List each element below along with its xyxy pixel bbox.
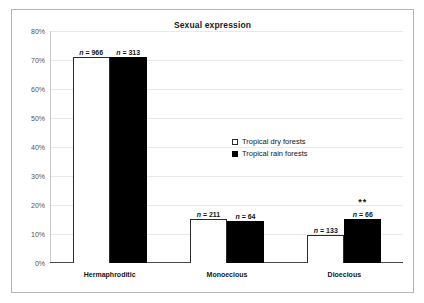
y-axis-tick-label: 50% — [31, 115, 45, 122]
open-square-icon — [232, 139, 238, 145]
x-axis-category-label: Hermaphroditic — [51, 271, 168, 278]
x-axis-category-label: Dioecious — [286, 271, 403, 278]
bar-group-hermaphroditic: n = 966n = 313Hermaphroditic — [51, 31, 168, 263]
bar-dioecious-dry: n = 133 — [307, 235, 344, 263]
y-axis-tick-label: 40% — [31, 144, 45, 151]
y-axis-tick-label: 30% — [31, 173, 45, 180]
plot-area: 0%10%20%30%40%50%60%70%80% n = 966n = 31… — [51, 31, 403, 263]
y-axis-tick-label: 10% — [31, 231, 45, 238]
significance-marker: ** — [358, 198, 367, 207]
y-axis-tick-label: 20% — [31, 202, 45, 209]
y-axis-tick-label: 60% — [31, 86, 45, 93]
legend-entry-tropical-dry-forests: Tropical dry forests — [232, 137, 308, 146]
chart-title: Sexual expression — [12, 20, 413, 30]
chart-legend: Tropical dry forests Tropical rain fores… — [232, 137, 308, 161]
chart-figure: Sexual expression 0%10%20%30%40%50%60%70… — [11, 9, 414, 293]
bar-value-label: n = 966 — [79, 49, 103, 56]
bar-monoecious-rain: n = 64 — [227, 221, 264, 263]
bars: n = 966n = 313 — [51, 31, 168, 263]
bar-dioecious-rain: n = 66** — [344, 219, 381, 263]
y-axis-tick-label: 80% — [31, 28, 45, 35]
filled-square-icon — [232, 151, 238, 157]
bar-value-label: n = 211 — [197, 211, 221, 218]
legend-entry-tropical-rain-forests: Tropical rain forests — [232, 149, 308, 158]
bar-value-label: n = 66 — [353, 211, 373, 218]
bar-hermaphroditic-dry: n = 966 — [73, 57, 110, 263]
bar-hermaphroditic-rain: n = 313 — [110, 57, 147, 263]
legend-label: Tropical dry forests — [242, 137, 306, 146]
legend-label: Tropical rain forests — [242, 149, 308, 158]
bar-value-label: n = 133 — [314, 227, 338, 234]
bar-value-label: n = 64 — [235, 213, 255, 220]
y-axis-tick-label: 0% — [35, 260, 45, 267]
y-axis-tick-label: 70% — [31, 57, 45, 64]
x-axis-category-label: Monoecious — [168, 271, 285, 278]
bar-monoecious-dry: n = 211 — [190, 219, 227, 263]
bar-value-label: n = 313 — [116, 49, 140, 56]
